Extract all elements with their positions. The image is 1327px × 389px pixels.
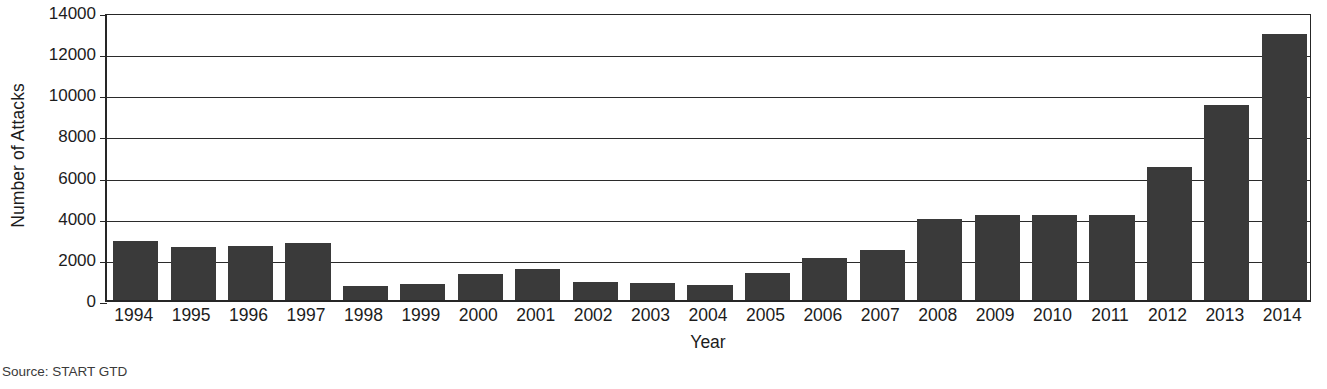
bar: [1204, 105, 1249, 300]
y-axis-tick-label: 0: [26, 292, 96, 312]
bar: [802, 258, 847, 300]
y-axis-tickmark: [100, 180, 107, 181]
y-axis-tickmark: [100, 221, 107, 222]
x-axis-tick-label: 2011: [1081, 305, 1138, 326]
x-axis-tick-label: 2003: [622, 305, 679, 326]
bars-layer: [107, 15, 1310, 300]
x-axis-tick-label: 1997: [277, 305, 334, 326]
y-axis-tickmark: [100, 303, 107, 304]
bar: [400, 284, 445, 300]
bar: [630, 283, 675, 300]
plot-area: [105, 14, 1311, 302]
y-axis-tickmark: [100, 15, 107, 16]
y-axis-tick-labels: 02000400060008000100001200014000: [30, 0, 102, 310]
x-axis-tick-label: 2004: [679, 305, 736, 326]
bar: [343, 286, 388, 300]
x-axis-tick-label: 1999: [392, 305, 449, 326]
x-axis-tick-label: 1995: [162, 305, 219, 326]
y-axis-tickmark: [100, 97, 107, 98]
bar: [515, 269, 560, 300]
bar: [745, 273, 790, 300]
y-axis-tick-label: 12000: [26, 45, 96, 65]
y-axis-tickmark: [100, 138, 107, 139]
x-axis-tick-label: 2002: [564, 305, 621, 326]
x-axis-tick-label: 2007: [852, 305, 909, 326]
x-axis-tick-label: 2014: [1254, 305, 1311, 326]
chart-page: Number of Attacks 0200040006000800010000…: [0, 0, 1327, 389]
x-axis-tick-label: 2001: [507, 305, 564, 326]
bar: [917, 219, 962, 300]
x-axis-tick-label: 2005: [737, 305, 794, 326]
x-axis-tick-labels: 1994199519961997199819992000200120022003…: [105, 305, 1311, 333]
bar: [171, 247, 216, 300]
x-axis-title: Year: [105, 332, 1311, 353]
y-axis-tick-label: 6000: [26, 169, 96, 189]
bar: [1262, 34, 1307, 300]
x-axis-tick-label: 1996: [220, 305, 277, 326]
x-axis-tick-label: 2013: [1196, 305, 1253, 326]
x-axis-tick-label: 2008: [909, 305, 966, 326]
x-axis-tick-label: 2012: [1139, 305, 1196, 326]
y-axis-tickmark: [100, 262, 107, 263]
x-axis-tick-label: 2010: [1024, 305, 1081, 326]
y-axis-tick-label: 14000: [26, 4, 96, 24]
y-axis-tick-label: 8000: [26, 127, 96, 147]
bar: [573, 282, 618, 301]
bar: [113, 241, 158, 300]
x-axis-tick-label: 2009: [966, 305, 1023, 326]
x-axis-tick-label: 2000: [450, 305, 507, 326]
y-axis-tick-label: 4000: [26, 210, 96, 230]
bar: [285, 243, 330, 300]
bar: [1147, 167, 1192, 300]
x-axis-tick-label: 1994: [105, 305, 162, 326]
y-axis-tickmark: [100, 56, 107, 57]
bar: [228, 246, 273, 301]
bar: [458, 274, 503, 300]
bar: [1032, 215, 1077, 300]
x-axis-tick-label: 2006: [794, 305, 851, 326]
bar: [1089, 215, 1134, 300]
y-axis-tick-label: 2000: [26, 251, 96, 271]
bar: [860, 250, 905, 300]
source-note: Source: START GTD: [2, 364, 127, 379]
y-axis-tick-label: 10000: [26, 86, 96, 106]
bar: [687, 285, 732, 300]
bar: [975, 215, 1020, 300]
x-axis-tick-label: 1998: [335, 305, 392, 326]
